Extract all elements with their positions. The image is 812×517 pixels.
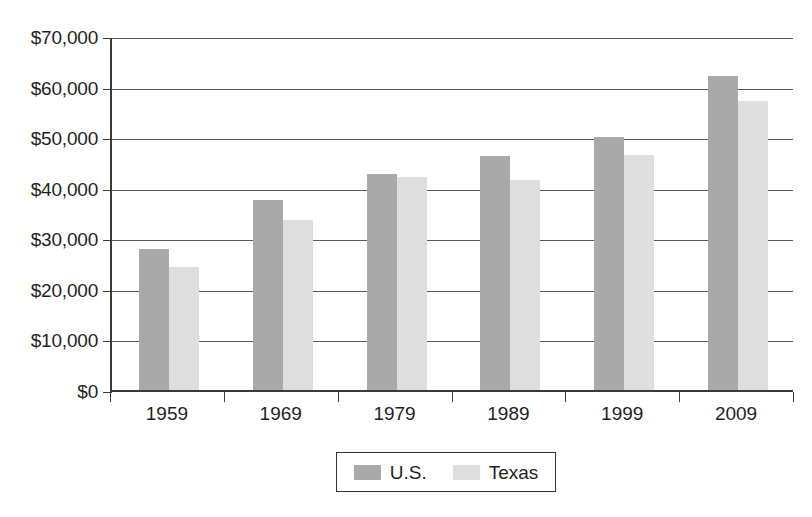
y-axis-tick xyxy=(103,240,112,241)
gridline xyxy=(112,291,793,292)
bar-us-1969 xyxy=(253,200,283,390)
x-axis-tick xyxy=(452,392,453,402)
bar-texas-2009 xyxy=(738,101,768,390)
legend-item-us[interactable]: U.S. xyxy=(354,463,427,482)
light-gray-swatch-icon xyxy=(453,465,480,480)
bar-us-1979 xyxy=(367,174,397,390)
bar-texas-1979 xyxy=(397,177,427,390)
gridline xyxy=(112,240,793,241)
y-axis-tick xyxy=(103,190,112,191)
x-axis-tick xyxy=(565,392,566,402)
x-axis-tick xyxy=(338,392,339,402)
bar-chart: $0$10,000$20,000$30,000$40,000$50,000$60… xyxy=(0,0,812,517)
bar-us-1959 xyxy=(139,249,169,390)
x-axis-label-1989: 1989 xyxy=(452,404,566,424)
y-axis-tick-label: $10,000 xyxy=(2,331,98,350)
gridline xyxy=(112,38,793,39)
y-axis-tick-label: $30,000 xyxy=(2,230,98,249)
plot-area xyxy=(110,38,793,392)
gridline xyxy=(112,139,793,140)
x-axis-tick xyxy=(110,392,111,402)
y-axis-tick xyxy=(103,291,112,292)
bar-texas-1959 xyxy=(169,267,199,390)
y-axis-tick-label: $60,000 xyxy=(2,79,98,98)
gridline xyxy=(112,89,793,90)
x-axis-label-1999: 1999 xyxy=(565,404,679,424)
gridline xyxy=(112,341,793,342)
gridline xyxy=(112,190,793,191)
y-axis-tick xyxy=(103,38,112,39)
bar-us-2009 xyxy=(708,76,738,390)
x-axis-label-1969: 1969 xyxy=(224,404,338,424)
x-axis-label-2009: 2009 xyxy=(679,404,793,424)
y-axis-tick-label: $20,000 xyxy=(2,281,98,300)
chart-legend: U.S. Texas xyxy=(336,452,556,492)
y-axis-tick-label: $70,000 xyxy=(2,28,98,47)
bar-texas-1989 xyxy=(510,180,540,390)
y-axis-tick-label: $40,000 xyxy=(2,180,98,199)
y-axis-tick xyxy=(103,89,112,90)
y-axis-tick xyxy=(103,341,112,342)
x-axis-tick xyxy=(224,392,225,402)
bar-texas-1999 xyxy=(624,155,654,390)
y-axis-tick-label: $0 xyxy=(2,382,98,401)
dark-gray-swatch-icon xyxy=(354,465,381,480)
x-axis-label-1959: 1959 xyxy=(110,404,224,424)
bar-texas-1969 xyxy=(283,220,313,390)
y-axis-tick xyxy=(103,139,112,140)
legend-label-us: U.S. xyxy=(390,463,427,482)
y-axis-tick-label: $50,000 xyxy=(2,129,98,148)
bar-us-1999 xyxy=(594,137,624,390)
legend-label-texas: Texas xyxy=(489,463,539,482)
x-axis-tick xyxy=(679,392,680,402)
x-axis-tick xyxy=(793,392,794,402)
bar-us-1989 xyxy=(480,156,510,390)
x-axis-label-1979: 1979 xyxy=(338,404,452,424)
legend-item-texas[interactable]: Texas xyxy=(453,463,539,482)
x-axis: 195919691979198919992009 xyxy=(110,392,793,436)
